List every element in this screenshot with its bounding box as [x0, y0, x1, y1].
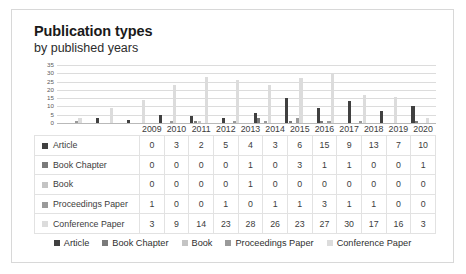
table-cell: 1 — [213, 194, 238, 214]
bar — [268, 85, 271, 123]
series-color-swatch-icon — [42, 221, 48, 227]
legend-item[interactable]: Conference Paper — [327, 238, 412, 248]
bar — [299, 78, 302, 123]
publication-types-card: Publication types by published years 353… — [11, 9, 454, 263]
table-cell: 1 — [337, 194, 362, 214]
table-cell: 0 — [189, 194, 214, 214]
table-col-header-year: 2009 — [140, 122, 165, 136]
table-col-header-year: 2020 — [411, 122, 436, 136]
table-cell: 0 — [287, 175, 312, 195]
table-col-header-year: 2018 — [361, 122, 386, 136]
series-color-swatch-icon — [42, 182, 48, 188]
table-cell: 1 — [287, 194, 312, 214]
table-cell: 9 — [164, 214, 189, 234]
y-axis-tick: 20 — [47, 87, 54, 93]
bar-group — [120, 65, 152, 123]
series-color-swatch-icon — [42, 202, 48, 208]
table-row: Proceedings Paper100101131100 — [35, 194, 436, 214]
table-row: Book Chapter000010311001 — [35, 155, 436, 175]
table-cell: 13 — [361, 136, 386, 156]
table-col-header-year: 2012 — [213, 122, 238, 136]
table-cell: 3 — [312, 194, 337, 214]
table-cell: 0 — [164, 194, 189, 214]
table-cell: 0 — [189, 155, 214, 175]
table-col-header-year: 2010 — [164, 122, 189, 136]
legend-item-label: Book Chapter — [112, 238, 168, 248]
table-cell: 15 — [312, 136, 337, 156]
table-cell: 14 — [189, 214, 214, 234]
table-cell: 0 — [337, 175, 362, 195]
bar-groups — [57, 65, 436, 123]
legend-item[interactable]: Book Chapter — [102, 238, 168, 248]
bar — [331, 73, 334, 123]
y-axis-tick: 15 — [47, 95, 54, 101]
bar — [236, 80, 239, 123]
table-cell: 28 — [238, 214, 263, 234]
y-axis-tick: 30 — [47, 70, 54, 76]
table-cell: 0 — [411, 175, 436, 195]
table-cell: 2 — [189, 136, 214, 156]
bar — [173, 85, 176, 123]
table-cell: 3 — [140, 214, 165, 234]
legend-item[interactable]: Book — [182, 238, 213, 248]
table-cell: 23 — [287, 214, 312, 234]
series-color-swatch-icon — [42, 143, 48, 149]
table-cell: 9 — [337, 136, 362, 156]
bar — [285, 98, 288, 123]
legend-item-label: Book — [192, 238, 213, 248]
legend-color-swatch-icon — [54, 240, 60, 246]
table-cell: 5 — [213, 136, 238, 156]
table-cell: 0 — [386, 155, 411, 175]
legend-item[interactable]: Proceedings Paper — [225, 238, 313, 248]
table-corner-cell — [35, 122, 140, 136]
table-cell: 0 — [361, 155, 386, 175]
table-cell: 0 — [361, 175, 386, 195]
bar-group — [215, 65, 247, 123]
table-cell: 3 — [287, 155, 312, 175]
table-cell: 26 — [263, 214, 288, 234]
legend-color-swatch-icon — [225, 240, 231, 246]
bar-group — [89, 65, 121, 123]
table-cell: 1 — [263, 194, 288, 214]
table-cell: 7 — [386, 136, 411, 156]
table-cell: 1 — [140, 194, 165, 214]
bar — [394, 97, 397, 124]
table-col-header-year: 2015 — [287, 122, 312, 136]
series-color-swatch-icon — [42, 162, 48, 168]
bar-group — [246, 65, 278, 123]
chart-legend: ArticleBook ChapterBookProceedings Paper… — [12, 238, 453, 248]
table-row-label: Conference Paper — [35, 214, 140, 234]
chart-plot-area: 35302520151050 — [34, 65, 436, 128]
table-col-header-year: 2011 — [189, 122, 214, 136]
y-axis-tick: 5 — [51, 112, 54, 118]
table-cell: 0 — [164, 155, 189, 175]
table-cell: 3 — [263, 136, 288, 156]
table-cell: 0 — [140, 136, 165, 156]
table-col-header-year: 2013 — [238, 122, 263, 136]
table-cell: 0 — [386, 175, 411, 195]
table-cell: 3 — [411, 214, 436, 234]
bar — [363, 95, 366, 123]
table-cell: 0 — [411, 194, 436, 214]
table-cell: 1 — [238, 175, 263, 195]
bar-group — [373, 65, 405, 123]
table-cell: 0 — [140, 155, 165, 175]
legend-color-swatch-icon — [102, 240, 108, 246]
table-cell: 0 — [189, 175, 214, 195]
bar-group — [57, 65, 89, 123]
table-cell: 16 — [386, 214, 411, 234]
table-cell: 1 — [337, 155, 362, 175]
bar-group — [310, 65, 342, 123]
table-cell: 0 — [213, 155, 238, 175]
table-cell: 0 — [312, 175, 337, 195]
title-block: Publication types by published years — [34, 23, 152, 56]
table-cell: 6 — [287, 136, 312, 156]
table-cell: 0 — [213, 175, 238, 195]
table-cell: 0 — [263, 155, 288, 175]
legend-item[interactable]: Article — [54, 238, 90, 248]
bar — [142, 100, 145, 123]
table-cell: 27 — [312, 214, 337, 234]
legend-item-label: Proceedings Paper — [235, 238, 313, 248]
legend-color-swatch-icon — [182, 240, 188, 246]
legend-item-label: Article — [64, 238, 90, 248]
